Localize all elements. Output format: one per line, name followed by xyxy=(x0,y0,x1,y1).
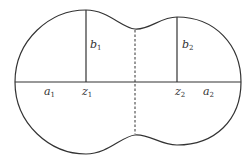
label-a1: a1 xyxy=(44,85,55,99)
label-z1: z1 xyxy=(81,85,92,99)
two-lobe-diagram: b1 a1 z1 b2 z2 a2 xyxy=(0,0,250,163)
label-b1: b1 xyxy=(90,38,102,52)
label-z2: z2 xyxy=(174,85,185,99)
label-a2: a2 xyxy=(203,85,214,99)
label-b2: b2 xyxy=(182,38,194,52)
